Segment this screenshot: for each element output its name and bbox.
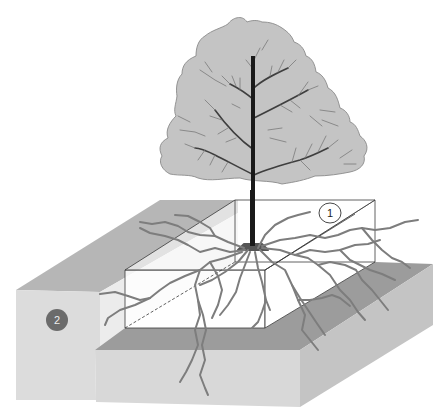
tree-pit-diagram: 1 2 bbox=[0, 0, 446, 407]
label-2: 2 bbox=[46, 309, 68, 331]
tree-trunk-lower bbox=[250, 190, 255, 246]
soil-front-bottom bbox=[95, 350, 300, 407]
label-2-text: 2 bbox=[54, 314, 60, 326]
canopy-outline bbox=[160, 18, 367, 184]
label-1: 1 bbox=[319, 203, 341, 223]
tree-trunk-upper bbox=[251, 56, 255, 192]
label-1-text: 1 bbox=[327, 207, 333, 219]
soil-front-left bbox=[16, 290, 100, 400]
tree-canopy bbox=[160, 18, 367, 192]
